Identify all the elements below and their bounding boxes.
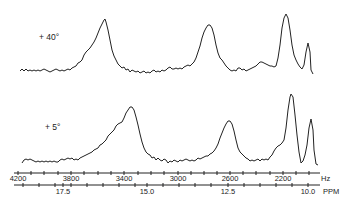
ppm-tick-label: 12.5: [221, 187, 236, 196]
spectrum-trace-plus5: [22, 94, 318, 165]
nmr-spectrum-chart: + 40° + 5° 4200 3800 3400 3000 2600 2200: [0, 0, 347, 205]
hz-tick-label: 3000: [170, 174, 187, 183]
spectrum-trace-plus40: [20, 14, 313, 74]
ppm-unit-label: PPM: [323, 187, 339, 196]
hz-tick-label: 3800: [63, 174, 80, 183]
hz-tick-label: 2600: [222, 174, 239, 183]
hz-tick-label: 4200: [10, 174, 27, 183]
ppm-tick-labels: 17.5 15.0 12.5 10.0: [56, 187, 316, 196]
trace-label-plus5: + 5°: [45, 122, 60, 132]
hz-tick-labels: 4200 3800 3400 3000 2600 2200: [10, 174, 292, 183]
ppm-tick-label: 10.0: [301, 187, 316, 196]
hz-unit-label: Hz: [321, 174, 330, 183]
hz-tick-label: 2200: [275, 174, 292, 183]
ppm-tick-label: 17.5: [56, 187, 71, 196]
hz-tick-label: 3400: [116, 174, 133, 183]
trace-label-plus40: + 40°: [39, 32, 59, 42]
ppm-tick-label: 15.0: [140, 187, 155, 196]
